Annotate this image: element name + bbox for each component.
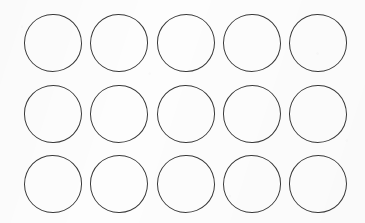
circle-r3-c3[interactable] xyxy=(157,155,215,213)
circle-r2-c1[interactable] xyxy=(24,85,82,143)
circle-r2-c4[interactable] xyxy=(223,85,281,143)
circle-r3-c1[interactable] xyxy=(24,155,82,213)
circle-r2-c2[interactable] xyxy=(90,85,148,143)
circle-r3-c5[interactable] xyxy=(289,155,347,213)
circle-r3-c4[interactable] xyxy=(223,155,281,213)
circle-r1-c3[interactable] xyxy=(157,14,215,72)
circle-r1-c2[interactable] xyxy=(90,14,148,72)
circle-r3-c2[interactable] xyxy=(90,155,148,213)
circle-r1-c1[interactable] xyxy=(24,14,82,72)
circle-grid xyxy=(0,0,365,223)
circle-r2-c3[interactable] xyxy=(157,85,215,143)
circle-r1-c5[interactable] xyxy=(289,14,347,72)
circle-r2-c5[interactable] xyxy=(289,85,347,143)
circle-grid-canvas xyxy=(0,0,365,223)
circle-r1-c4[interactable] xyxy=(223,14,281,72)
